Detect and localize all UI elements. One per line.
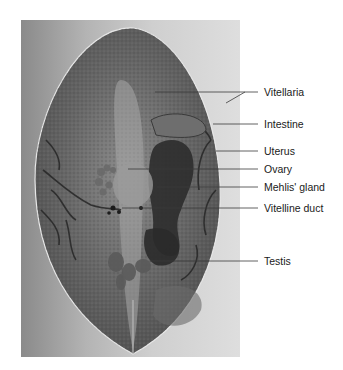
label-testis: Testis xyxy=(264,255,291,267)
label-ovary: Ovary xyxy=(264,163,292,175)
specimen-photo xyxy=(21,20,240,357)
specimen-illustration xyxy=(21,20,240,357)
label-vitelline-duct: Vitelline duct xyxy=(264,202,323,214)
label-intestine: Intestine xyxy=(264,118,304,130)
label-vitellaria: Vitellaria xyxy=(264,86,304,98)
label-uterus: Uterus xyxy=(264,145,295,157)
ovary xyxy=(113,163,153,207)
label-mehlis-gland: Mehlis' gland xyxy=(264,181,325,193)
